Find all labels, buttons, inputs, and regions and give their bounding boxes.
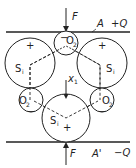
arrow-up-icon bbox=[63, 142, 69, 148]
si-left-charge: + bbox=[26, 40, 34, 51]
o2-right-sub: 2 bbox=[109, 101, 113, 108]
force-top-label: F bbox=[72, 11, 78, 22]
si-bottom-charge: + bbox=[63, 122, 71, 133]
si-right-sub: i bbox=[113, 68, 115, 75]
o2-top-sub: 2 bbox=[73, 41, 77, 48]
si-bottom-label: S bbox=[50, 115, 56, 126]
si-left-sub: i bbox=[22, 68, 24, 75]
displacement-label: x bbox=[67, 73, 74, 84]
displacement-sub: 1 bbox=[74, 78, 78, 85]
si-right-label: S bbox=[106, 63, 112, 74]
plate-bottom-label: A' bbox=[91, 148, 102, 159]
o2-right-charge: − bbox=[98, 106, 106, 117]
si-right-charge: + bbox=[98, 40, 106, 51]
piezoelectric-diagram: F A +Q F A' −Q − O 2 + S i + S i O 2 − O… bbox=[0, 0, 136, 168]
plate-top-label: A bbox=[96, 18, 104, 29]
plate-top-charge: +Q bbox=[111, 18, 127, 29]
o2-left-charge: − bbox=[27, 106, 35, 117]
force-bottom-label: F bbox=[70, 148, 76, 159]
plate-bottom-charge: −Q bbox=[114, 147, 130, 158]
si-left-label: S bbox=[15, 63, 21, 74]
